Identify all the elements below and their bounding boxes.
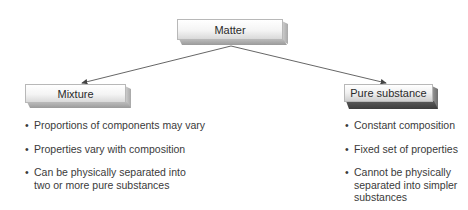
pure-substance-properties-list: Constant composition Fixed set of proper… [345, 119, 465, 210]
mixture-property: Proportions of components may vary [25, 119, 215, 132]
pure-substance-property: Constant composition [345, 119, 465, 132]
pure-substance-label: Pure substance [344, 84, 433, 102]
pure-substance-property: Cannot be physically separated into simp… [345, 166, 460, 204]
mixture-label: Mixture [25, 84, 126, 103]
mixture-property: Can be physically separated into two or … [25, 166, 194, 191]
arrow-matter-to-pure-substance [231, 46, 386, 83]
arrow-matter-to-mixture [82, 46, 231, 83]
mixture-properties-list: Proportions of components may vary Prope… [25, 119, 215, 202]
mixture-property: Properties vary with composition [25, 143, 215, 156]
matter-label: Matter [177, 19, 283, 40]
pure-substance-property: Fixed set of properties [345, 143, 465, 156]
